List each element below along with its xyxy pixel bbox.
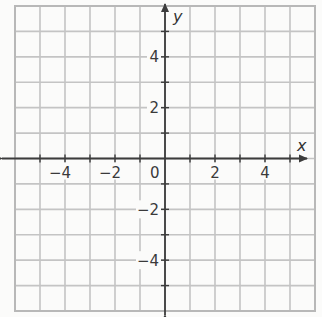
y-tick-label: 4 bbox=[149, 48, 159, 66]
y-tick-label: 2 bbox=[149, 99, 159, 117]
y-tick-label: −4 bbox=[137, 252, 159, 270]
y-tick-label: −2 bbox=[137, 201, 159, 219]
x-axis-label: x bbox=[296, 136, 307, 155]
origin-label: 0 bbox=[150, 164, 160, 182]
x-tick-label: −2 bbox=[99, 164, 121, 182]
y-axis-label: y bbox=[172, 7, 183, 26]
x-tick-label: 4 bbox=[260, 164, 270, 182]
coordinate-plane: −4−22442−2−4 x y 0 bbox=[0, 0, 322, 317]
x-tick-label: 2 bbox=[210, 164, 220, 182]
x-tick-label: −4 bbox=[49, 164, 71, 182]
